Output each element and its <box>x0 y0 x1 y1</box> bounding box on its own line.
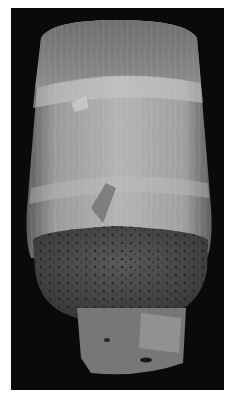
fiber-image <box>11 8 224 390</box>
micrograph-panel <box>11 8 224 390</box>
